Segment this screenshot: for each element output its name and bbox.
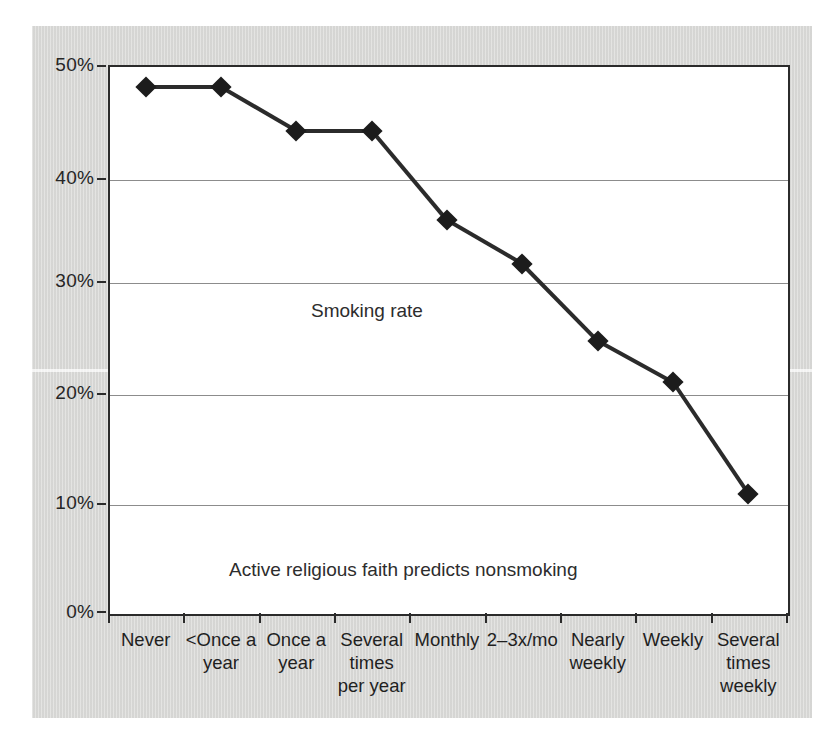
y-axis: 50% 40% 30% 20% 10% 0%: [32, 0, 94, 745]
y-tick-label-40: 40%: [55, 167, 94, 189]
x-tick-6: [560, 613, 562, 623]
y-tick-50: [97, 65, 106, 67]
line-segment-5: [521, 263, 599, 342]
line-segment-3: [370, 129, 448, 221]
x-tick-1: [183, 613, 185, 623]
x-axis-labels: Never<Once a yearOnce a yearSeveral time…: [108, 628, 790, 728]
y-tick-40: [97, 178, 106, 180]
x-axis-label-3: Several times per year: [328, 628, 415, 697]
y-tick-label-10: 10%: [55, 492, 94, 514]
x-axis-label-4: Monthly: [403, 628, 490, 651]
data-point-0: [135, 76, 156, 97]
y-tick-label-20: 20%: [55, 382, 94, 404]
x-axis-label-8: Several times weekly: [705, 628, 792, 697]
x-axis-label-2: Once a year: [253, 628, 340, 674]
x-tick-7: [635, 613, 637, 623]
x-tick-5: [485, 613, 487, 623]
y-tick-0: [97, 611, 106, 613]
y-tick-20: [97, 393, 106, 395]
chart-caption: Active religious faith predicts nonsmoki…: [229, 559, 578, 581]
line-segment-1: [220, 85, 297, 132]
line-segment-7: [671, 381, 750, 495]
y-tick-30: [97, 281, 106, 283]
line-segment-6: [597, 339, 674, 384]
x-tick-9: [786, 613, 788, 623]
x-tick-4: [409, 613, 411, 623]
y-tick-10: [97, 503, 106, 505]
figure: 50% 40% 30% 20% 10% 0% Never<Once a year…: [0, 0, 839, 745]
x-axis-label-7: Weekly: [629, 628, 716, 651]
data-point-1: [210, 76, 231, 97]
y-tick-label-0: 0%: [66, 601, 94, 623]
x-tick-8: [711, 613, 713, 623]
x-axis-label-5: 2–3x/mo: [479, 628, 566, 651]
x-tick-0: [108, 613, 110, 623]
series-smoking-rate: [108, 65, 786, 612]
y-tick-label-30: 30%: [55, 270, 94, 292]
x-axis-label-1: <Once a year: [177, 628, 264, 674]
series-annotation: Smoking rate: [311, 300, 423, 322]
y-tick-label-50: 50%: [55, 54, 94, 76]
x-axis-label-0: Never: [102, 628, 189, 651]
line-segment-4: [446, 219, 523, 266]
x-axis-label-6: Nearly weekly: [554, 628, 641, 674]
x-tick-3: [334, 613, 336, 623]
x-tick-2: [259, 613, 261, 623]
